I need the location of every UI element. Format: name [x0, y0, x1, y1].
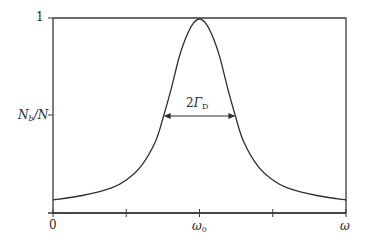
width-arrow	[164, 113, 236, 119]
y-axis-label: Nb/N	[18, 109, 48, 123]
y-label-n: N	[18, 108, 29, 122]
width-subscript: D	[202, 102, 208, 111]
axis-ticks	[48, 18, 346, 217]
x-axis-label: ω	[340, 220, 350, 232]
line-profile-chart	[0, 0, 367, 244]
width-gamma: Γ	[194, 96, 202, 110]
omega0-main: ω	[192, 219, 202, 233]
x-tick-label-omega0: ω0	[192, 220, 207, 234]
omega0-subscript: 0	[202, 225, 207, 234]
y-label-denominator: /N	[34, 108, 49, 122]
width-prefix: 2	[186, 96, 194, 110]
width-annotation: 2ΓD	[186, 97, 208, 111]
y-tick-label-one: 1	[36, 11, 44, 23]
x-tick-label-zero: 0	[49, 219, 57, 231]
